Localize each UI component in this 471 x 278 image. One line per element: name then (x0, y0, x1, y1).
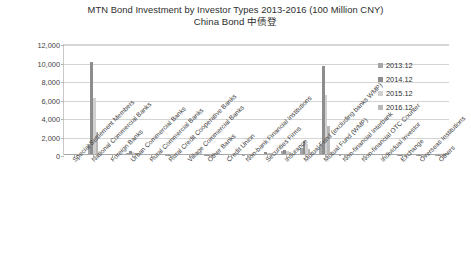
legend-swatch-icon (378, 105, 383, 110)
y-axis-tick-mark (61, 138, 64, 139)
chart-title: MTN Bond Investment by Investor Types 20… (0, 4, 471, 16)
y-axis-tick-mark (61, 45, 64, 46)
y-axis-tick-mark (61, 156, 64, 157)
y-axis-tick-label: 0 (56, 152, 60, 161)
chart-legend: 2013.122014.122015.122016.12 (378, 58, 466, 114)
legend-swatch-icon (378, 77, 383, 82)
legend-swatch-icon (378, 63, 383, 68)
y-axis-tick-mark (61, 101, 64, 102)
chart-title-block: MTN Bond Investment by Investor Types 20… (0, 4, 471, 28)
legend-label: 2016.12 (386, 103, 413, 112)
y-axis-tick-label: 6,000 (42, 96, 61, 105)
legend-label: 2014.12 (386, 75, 413, 84)
y-axis-tick-mark (61, 119, 64, 120)
legend-item[interactable]: 2015.12 (378, 86, 466, 100)
legend-label: 2013.12 (386, 61, 413, 70)
legend-item[interactable]: 2013.12 (378, 58, 466, 72)
y-axis-tick-mark (61, 82, 64, 83)
bar-chart: MTN Bond Investment by Investor Types 20… (0, 0, 471, 278)
legend-item[interactable]: 2016.12 (378, 100, 466, 114)
chart-subtitle: China Bond 中债登 (0, 16, 471, 28)
y-axis-tick-label: 8,000 (42, 78, 61, 87)
legend-label: 2015.12 (386, 89, 413, 98)
y-axis-tick-label: 10,000 (37, 59, 60, 68)
legend-swatch-icon (378, 91, 383, 96)
y-axis-tick-label: 12,000 (37, 41, 60, 50)
y-axis-tick-mark (61, 64, 64, 65)
legend-item[interactable]: 2014.12 (378, 72, 466, 86)
bar-cluster (64, 45, 83, 155)
y-axis-tick-label: 2,000 (42, 133, 61, 142)
y-axis-tick-label: 4,000 (42, 115, 61, 124)
